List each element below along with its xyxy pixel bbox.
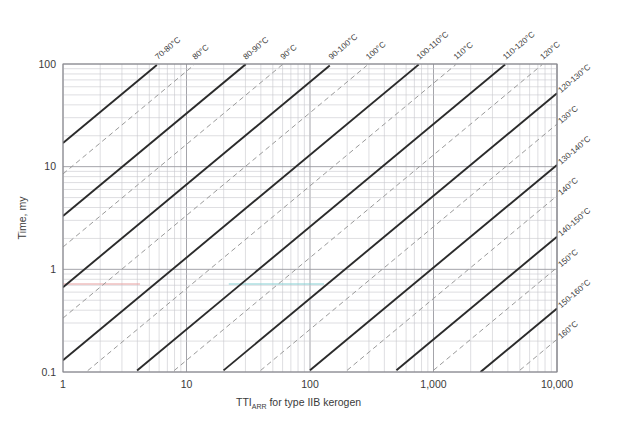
y-tick-label: 10 xyxy=(44,160,56,172)
x-tick-label: 1,000 xyxy=(420,378,446,390)
y-axis-title: Time, my xyxy=(16,196,28,240)
chart-background xyxy=(0,0,625,431)
x-tick-label: 10 xyxy=(181,378,193,390)
y-tick-label: 100 xyxy=(38,58,56,70)
x-axis-title-subscript: ARR xyxy=(252,403,267,410)
x-tick-label: 100 xyxy=(301,378,319,390)
x-axis-title-rest: for type IIB kerogen xyxy=(267,396,362,408)
y-tick-label: 0.1 xyxy=(41,366,56,378)
x-axis-title-main: TTI xyxy=(236,396,252,408)
log-log-isotherm-nomogram: 0.1110100 1101001,00010,000 70-80°C80°C8… xyxy=(0,0,625,431)
chart-figure: 0.1110100 1101001,00010,000 70-80°C80°C8… xyxy=(0,0,625,431)
y-tick-label: 1 xyxy=(50,263,56,275)
x-tick-label: 10,000 xyxy=(541,378,573,390)
x-tick-label: 1 xyxy=(60,378,66,390)
